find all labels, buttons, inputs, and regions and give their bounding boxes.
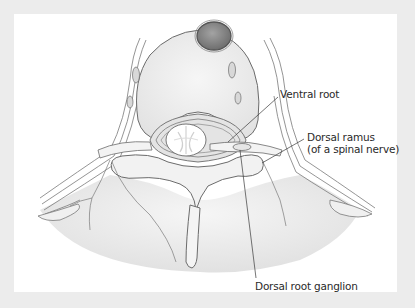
dorsal-root-ganglion-shape xyxy=(233,144,251,151)
label-dorsal-ramus: Dorsal ramus xyxy=(307,131,375,143)
label-dorsal-ramus-subtitle: (of a spinal nerve) xyxy=(307,143,399,155)
label-ventral-root: Ventral root xyxy=(280,88,339,100)
label-dorsal-root-ganglion: Dorsal root ganglion xyxy=(255,280,358,292)
spinal-cord xyxy=(166,124,206,156)
aorta xyxy=(197,22,231,50)
